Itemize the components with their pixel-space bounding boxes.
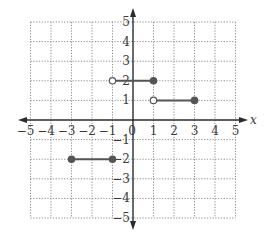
x-axis-label: x bbox=[250, 113, 257, 127]
x-tick-label: 4 bbox=[211, 124, 219, 138]
x-tick-label: −4 bbox=[37, 124, 55, 138]
closed-endpoint-icon bbox=[68, 156, 74, 162]
y-tick-label: 4 bbox=[122, 35, 130, 49]
x-tick-label: 1 bbox=[150, 124, 158, 138]
y-tick-label: −5 bbox=[112, 211, 130, 225]
closed-endpoint-icon bbox=[109, 156, 115, 162]
y-tick-label: −1 bbox=[112, 133, 130, 147]
x-tick-label: 5 bbox=[232, 124, 240, 138]
y-tick-label: 5 bbox=[122, 15, 130, 29]
x-tick-label: −3 bbox=[58, 124, 76, 138]
x-tick-label: −2 bbox=[78, 124, 96, 138]
y-axis-down-arrow-icon bbox=[130, 221, 136, 230]
y-axis-up-arrow-icon bbox=[130, 8, 136, 17]
x-tick-label: 3 bbox=[191, 124, 199, 138]
open-endpoint-icon bbox=[150, 97, 156, 103]
x-axis-left-arrow-icon bbox=[18, 117, 27, 123]
closed-endpoint-icon bbox=[191, 97, 197, 103]
y-tick-label: 3 bbox=[122, 54, 130, 68]
y-tick-label: −4 bbox=[112, 191, 130, 205]
y-tick-label: −3 bbox=[112, 172, 130, 186]
open-endpoint-icon bbox=[109, 78, 115, 84]
x-tick-label: 2 bbox=[170, 124, 178, 138]
x-axis-right-arrow-icon bbox=[239, 117, 248, 123]
x-tick-label: −5 bbox=[17, 124, 35, 138]
step-function-graph: x−5−4−3−2−101234554321−1−2−3−4−5 bbox=[0, 0, 264, 244]
closed-endpoint-icon bbox=[150, 78, 156, 84]
y-tick-label: 1 bbox=[122, 93, 130, 107]
